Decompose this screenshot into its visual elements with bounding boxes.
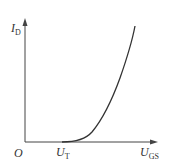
characteristic-plot <box>0 0 173 164</box>
x-axis-label: UGS <box>140 146 159 161</box>
threshold-label: UT <box>56 146 70 161</box>
y-axis-label: ID <box>11 22 21 37</box>
y-axis-arrow <box>23 18 28 26</box>
id-vgs-curve <box>62 26 135 142</box>
x-axis-arrow <box>150 140 158 145</box>
origin-label: O <box>14 147 23 159</box>
